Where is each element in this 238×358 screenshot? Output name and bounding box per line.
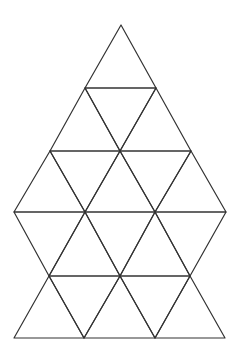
triangle-cell bbox=[14, 151, 85, 212]
triangle-grid-diagram: Triangular grid figure bbox=[0, 0, 238, 358]
triangle-cell bbox=[50, 151, 120, 212]
triangle-cell bbox=[85, 212, 155, 276]
triangle-cell bbox=[85, 25, 156, 88]
triangle-cell bbox=[85, 88, 156, 151]
triangle-cell bbox=[120, 212, 190, 276]
triangles-layer bbox=[14, 25, 226, 338]
triangle-cell bbox=[120, 88, 191, 151]
triangle-cell bbox=[120, 276, 190, 338]
triangle-cell bbox=[84, 276, 155, 338]
triangle-cell bbox=[14, 276, 84, 338]
triangle-cell bbox=[50, 88, 120, 151]
triangle-cell bbox=[14, 212, 85, 276]
triangle-cell bbox=[155, 212, 226, 276]
triangle-cell bbox=[155, 151, 226, 212]
triangle-cell bbox=[49, 212, 120, 276]
triangle-cell bbox=[49, 276, 120, 338]
triangle-cell bbox=[85, 151, 155, 212]
triangle-grid-svg bbox=[0, 0, 238, 358]
triangle-cell bbox=[155, 276, 225, 338]
triangle-cell bbox=[120, 151, 191, 212]
